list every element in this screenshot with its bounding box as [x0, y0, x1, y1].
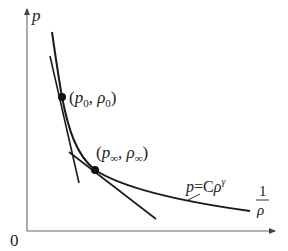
point-label-pinf: (p∞, ρ∞) — [96, 143, 148, 164]
isentrope-diagram: p 0 1 ρ (p0, ρ0) (p∞, ρ∞) p=Cργ — [0, 0, 288, 251]
curve-label: p=Cργ — [185, 176, 226, 196]
point-label-p0: (p0, ρ0) — [69, 88, 117, 109]
x-axis-label-numerator: 1 — [259, 183, 267, 199]
tangent-line-p0 — [50, 56, 79, 183]
x-axis-label-denominator: ρ — [256, 202, 264, 218]
y-axis-label: p — [31, 6, 41, 25]
point-pinf — [91, 166, 99, 174]
origin-label: 0 — [10, 231, 19, 250]
point-p0 — [58, 93, 66, 101]
